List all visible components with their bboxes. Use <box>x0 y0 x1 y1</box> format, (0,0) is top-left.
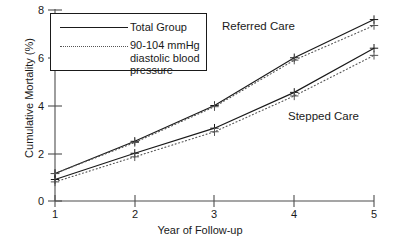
x-tick-label-4: 4 <box>284 208 304 220</box>
chart-figure: 8 6 4 2 0 1 2 3 4 5 Cumulative Mortality… <box>0 0 410 246</box>
legend-item-diastolic-bp: 90-104 mmHg diastolic blood pressure <box>58 39 200 77</box>
y-tick-label-8: 8 <box>28 4 44 16</box>
annotation-stepped-care: Stepped Care <box>288 110 359 122</box>
legend-solid-line-icon <box>58 21 130 35</box>
y-axis-label: Cumulative Mortality (%) <box>23 18 35 178</box>
annotation-referred-care: Referred Care <box>222 20 295 32</box>
legend-label-diastolic-bp: 90-104 mmHg diastolic blood pressure <box>130 39 200 77</box>
data-point-marker <box>290 56 298 64</box>
x-tick-label-3: 3 <box>204 208 224 220</box>
data-point-marker <box>370 51 378 59</box>
data-point-marker <box>370 44 378 52</box>
x-axis-label: Year of Follow-up <box>120 224 280 236</box>
x-tick-label-5: 5 <box>364 208 384 220</box>
legend-item-total-group: Total Group <box>58 21 187 35</box>
legend-label-total-group: Total Group <box>130 21 187 34</box>
x-tick-label-2: 2 <box>125 208 145 220</box>
chart-legend: Total Group 90-104 mmHg diastolic blood … <box>50 13 207 71</box>
x-tick-label-1: 1 <box>45 208 65 220</box>
data-point-marker <box>290 92 298 100</box>
legend-dotted-line-icon <box>58 39 130 53</box>
data-point-marker <box>370 21 378 29</box>
y-tick-label-0: 0 <box>28 195 44 207</box>
